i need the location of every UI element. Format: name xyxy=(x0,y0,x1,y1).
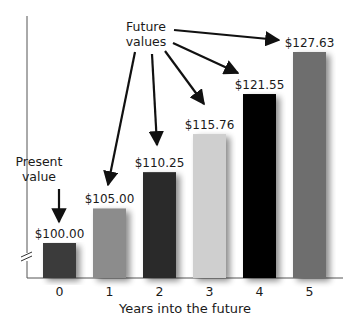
arrow-icon xyxy=(173,43,238,73)
x-tick-label: 5 xyxy=(306,284,314,299)
x-tick-label: 4 xyxy=(256,284,264,299)
bar-value-label: $105.00 xyxy=(85,192,135,206)
x-tick-label: 2 xyxy=(156,284,164,299)
x-tick-label: 0 xyxy=(56,284,64,299)
arrow-icon xyxy=(108,52,135,185)
arrow-icon xyxy=(165,51,204,104)
x-axis-title: Years into the future xyxy=(118,301,251,316)
bar-value-label: $127.63 xyxy=(285,36,335,50)
arrow-icon xyxy=(174,30,279,40)
bar-value-label: $121.55 xyxy=(235,78,285,92)
bar-value-labels: $100.00$105.00$110.25$115.76$121.55$127.… xyxy=(35,36,335,241)
future-values-label-line1: Future xyxy=(126,19,166,34)
present-value-label-line1: Present xyxy=(16,154,63,169)
bar-value-label: $100.00 xyxy=(35,227,85,241)
y-axis xyxy=(20,16,34,278)
x-tick-label: 1 xyxy=(106,284,114,299)
future-values-label-line2: values xyxy=(126,34,167,49)
x-tick-label: 3 xyxy=(206,284,214,299)
present-value-annotation: Present value xyxy=(16,154,63,222)
x-tick-labels: 012345 xyxy=(56,284,314,299)
bar-year-5 xyxy=(293,52,326,278)
bar-year-2 xyxy=(143,172,176,278)
present-value-label-line2: value xyxy=(22,169,56,184)
bar-value-label: $115.76 xyxy=(185,118,235,132)
future-value-bar-chart: $100.00$105.00$110.25$115.76$121.55$127.… xyxy=(0,0,356,333)
arrow-icon xyxy=(152,54,157,145)
bar-year-0 xyxy=(43,243,76,278)
bar-year-3 xyxy=(193,134,226,278)
bar-year-1 xyxy=(93,208,126,278)
bar-year-4 xyxy=(243,94,276,278)
axis-break-icon xyxy=(20,252,34,261)
bar-value-label: $110.25 xyxy=(135,156,185,170)
